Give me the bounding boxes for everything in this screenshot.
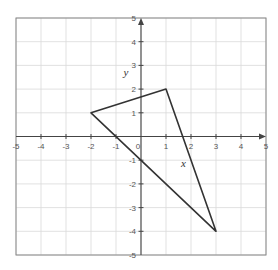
x-axis-arrow-icon [259,134,266,140]
x-tick-label: 3 [214,142,219,151]
y-tick-label: 1 [132,109,137,118]
side-label-y: y [123,66,129,78]
coordinate-plane: -5-4-3-2-1012345-5-4-3-2-112345 yx [0,0,278,270]
x-tick-label: 5 [264,142,269,151]
y-tick-label: 2 [132,85,137,94]
axes [16,18,266,255]
y-tick-label: -1 [129,156,137,165]
y-tick-label: 4 [132,38,137,47]
x-tick-label: -2 [87,142,95,151]
x-tick-label: -3 [62,142,70,151]
y-tick-label: 3 [132,61,137,70]
x-tick-label: -1 [112,142,120,151]
y-tick-label: -4 [129,227,137,236]
y-tick-label: -2 [129,180,137,189]
y-tick-label: -3 [129,204,137,213]
x-tick-label: 0 [136,142,141,151]
x-tick-label: -5 [12,142,20,151]
y-tick-label: -5 [129,251,137,260]
x-tick-label: -4 [37,142,45,151]
y-axis-arrow-icon [138,18,144,25]
x-tick-label: 2 [189,142,194,151]
side-label-x: x [180,157,186,169]
x-tick-label: 1 [164,142,169,151]
y-tick-label: 5 [132,14,137,23]
x-tick-label: 4 [239,142,244,151]
